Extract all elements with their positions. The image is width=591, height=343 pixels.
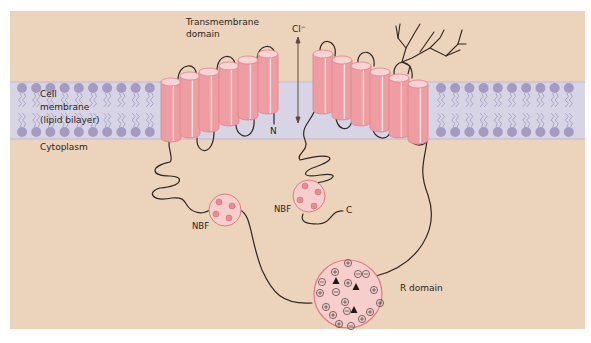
lipid-head xyxy=(45,127,55,137)
lipid-head xyxy=(17,127,27,137)
lipid-head xyxy=(564,83,574,93)
helix-cylinder xyxy=(332,56,352,120)
lipid-head xyxy=(116,127,126,137)
lipid-head xyxy=(450,127,460,137)
lipid-head xyxy=(550,127,560,137)
lipid-head xyxy=(74,83,84,93)
chloride-charge: − xyxy=(301,23,306,30)
helix-cylinder xyxy=(370,68,390,132)
lipid-head xyxy=(535,127,545,137)
helix-top xyxy=(238,56,258,64)
r-domain-label: R domain xyxy=(400,283,443,293)
lipid-head xyxy=(521,83,531,93)
helix-body xyxy=(180,76,200,138)
lipid-head xyxy=(31,127,41,137)
helix-cylinder xyxy=(161,78,181,142)
helix-top xyxy=(219,62,239,70)
c-terminus-label: C xyxy=(346,205,352,215)
lipid-head xyxy=(450,83,460,93)
helix-top xyxy=(408,80,428,88)
helix-top xyxy=(351,62,371,70)
helix-body xyxy=(332,60,352,120)
helix-body xyxy=(389,78,409,138)
nbf-domain-left: } xyxy=(209,194,241,226)
helix-cylinder xyxy=(389,74,409,138)
lipid-head xyxy=(464,83,474,93)
helix-top xyxy=(313,50,333,58)
helix-cylinder xyxy=(313,50,333,114)
lipid-head xyxy=(464,127,474,137)
lipid-head xyxy=(102,83,112,93)
lipid-head xyxy=(74,127,84,137)
helix-body xyxy=(219,66,239,126)
helix-body xyxy=(370,72,390,132)
cftr-diagram: } Transmembrane domain Cl− Cell membrane… xyxy=(0,0,591,343)
helix-body xyxy=(238,60,258,120)
nbf-domain-right xyxy=(293,180,325,212)
helix-cylinder xyxy=(351,62,371,126)
helix-cylinder xyxy=(219,62,239,126)
lipid-head xyxy=(493,127,503,137)
helix-top xyxy=(258,50,278,58)
lipid-head xyxy=(60,83,70,93)
helix-cylinder xyxy=(258,50,278,114)
membrane-label-line3: (lipid bilayer) xyxy=(40,115,100,125)
helix-top xyxy=(389,74,409,82)
helix-body xyxy=(408,84,428,144)
lipid-head xyxy=(88,127,98,137)
transmembrane-label-line2: domain xyxy=(186,29,220,39)
helix-cylinder xyxy=(408,80,428,144)
cytoplasm-label: Cytoplasm xyxy=(40,142,88,152)
transmembrane-label-line1: Transmembrane xyxy=(185,17,259,27)
helix-body xyxy=(199,72,219,132)
chloride-symbol: Cl xyxy=(292,24,301,34)
lipid-head xyxy=(493,83,503,93)
lipid-head xyxy=(550,83,560,93)
lipid-head xyxy=(88,83,98,93)
helix-cylinder xyxy=(238,56,258,120)
helix-top xyxy=(161,78,181,86)
lipid-head xyxy=(131,127,141,137)
nbf-right-label: NBF xyxy=(274,204,291,214)
helix-top xyxy=(180,72,200,80)
helix-body xyxy=(351,66,371,126)
helix-cylinder xyxy=(180,72,200,138)
lipid-head xyxy=(535,83,545,93)
helix-body xyxy=(313,54,333,114)
membrane-label-line1: Cell xyxy=(40,89,57,99)
helix-top xyxy=(199,68,219,76)
lipid-head xyxy=(60,127,70,137)
lipid-head xyxy=(116,83,126,93)
helix-body xyxy=(258,54,278,114)
lipid-head xyxy=(564,127,574,137)
lipid-head xyxy=(102,127,112,137)
lipid-head xyxy=(479,83,489,93)
membrane-label-line2: membrane xyxy=(40,102,90,112)
lipid-head xyxy=(436,83,446,93)
helix-body xyxy=(161,82,181,142)
lipid-head xyxy=(507,127,517,137)
helix-top xyxy=(370,68,390,76)
nbf-left-label: NBF xyxy=(192,221,209,231)
lipid-head xyxy=(507,83,517,93)
n-terminus-label: N xyxy=(270,126,277,136)
lipid-head xyxy=(521,127,531,137)
helix-cylinder xyxy=(199,68,219,132)
lipid-head xyxy=(479,127,489,137)
helix-top xyxy=(332,56,352,64)
lipid-head xyxy=(17,83,27,93)
lipid-head xyxy=(145,127,155,137)
lipid-head xyxy=(436,127,446,137)
lipid-head xyxy=(131,83,141,93)
lipid-head xyxy=(145,83,155,93)
